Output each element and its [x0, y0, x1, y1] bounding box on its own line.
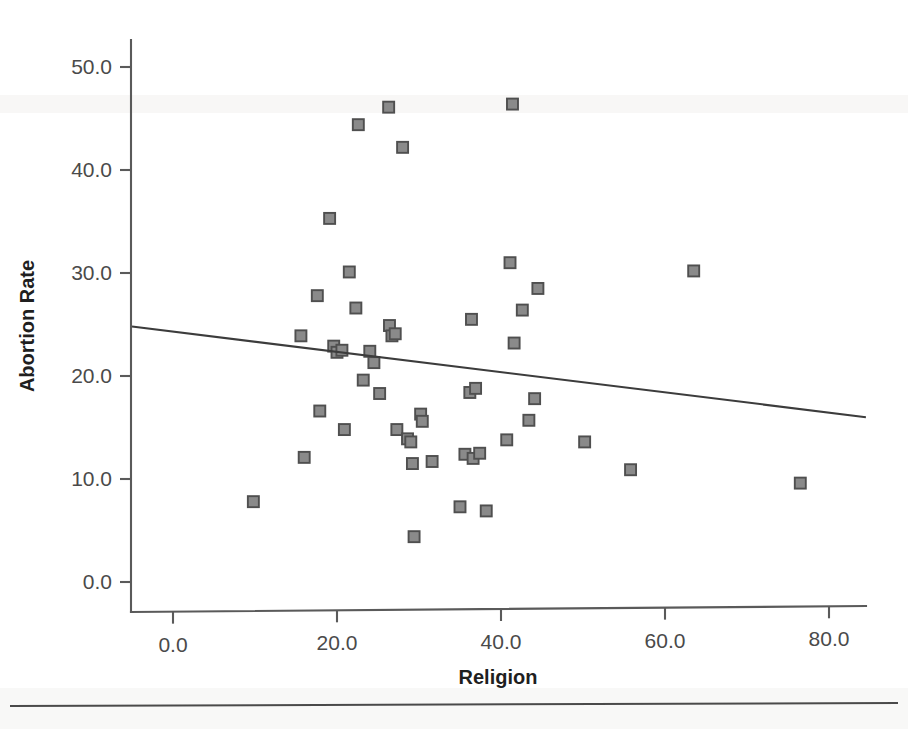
scatter-point [470, 383, 481, 394]
scatter-point [295, 330, 306, 341]
scan-artifact-band-lower [0, 688, 908, 729]
scatter-point [427, 456, 438, 467]
scatter-point [474, 448, 485, 459]
scatter-point [795, 478, 806, 489]
scatter-point [390, 328, 401, 339]
scatter-point [481, 505, 492, 516]
scatter-point [466, 314, 477, 325]
plot-canvas: 0.010.020.030.040.050.0 0.020.040.060.08… [0, 0, 908, 729]
y-tick-label: 20.0 [71, 364, 112, 387]
scatter-point [353, 119, 364, 130]
scan-artifact-band [0, 95, 908, 113]
scatter-point [517, 305, 528, 316]
x-tick-label: 20.0 [317, 631, 358, 654]
scatter-point [368, 357, 379, 368]
scatter-point [374, 388, 385, 399]
x-tick-label: 40.0 [481, 630, 522, 653]
scatter-point [405, 436, 416, 447]
scatter-point [407, 458, 418, 469]
scatter-point [344, 266, 355, 277]
y-tick-label: 10.0 [71, 467, 112, 490]
scatter-point [397, 142, 408, 153]
y-tick-label: 30.0 [71, 261, 112, 284]
scatter-point [688, 265, 699, 276]
scatter-point [350, 303, 361, 314]
scatter-point [391, 424, 402, 435]
scatter-point [417, 416, 428, 427]
scatter-point [523, 415, 534, 426]
y-tick-label: 40.0 [71, 158, 112, 181]
x-tick-label: 80.0 [809, 627, 850, 650]
scatter-point [625, 464, 636, 475]
x-tick-label: 60.0 [645, 629, 686, 652]
scatter-point [324, 213, 335, 224]
scatter-point [299, 452, 310, 463]
x-tick-label: 0.0 [158, 633, 187, 656]
scatter-point [248, 496, 259, 507]
scatter-point [529, 393, 540, 404]
scatter-point [336, 345, 347, 356]
scatter-point [501, 434, 512, 445]
scatter-point [505, 257, 516, 268]
scatter-point [314, 406, 325, 417]
scatter-point [455, 501, 466, 512]
scatter-point [358, 375, 369, 386]
scatter-point [312, 290, 323, 301]
scatter-point [409, 531, 420, 542]
scatter-point [507, 99, 518, 110]
scatter-point [579, 436, 590, 447]
scatter-point [383, 102, 394, 113]
scatter-plot-figure: 0.010.020.030.040.050.0 0.020.040.060.08… [0, 0, 908, 729]
x-axis-title: Religion [459, 666, 538, 688]
scatter-point [509, 338, 520, 349]
scatter-point [339, 424, 350, 435]
y-tick-label: 50.0 [71, 55, 112, 78]
y-tick-label: 0.0 [83, 570, 112, 593]
scatter-point [532, 283, 543, 294]
y-axis-title: Abortion Rate [16, 260, 38, 392]
